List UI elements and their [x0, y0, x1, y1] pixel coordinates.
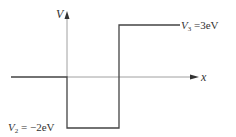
v3-label: V3 =3eV	[181, 19, 219, 33]
x-axis-label: x	[200, 70, 207, 84]
v-axis-arrow-icon	[65, 11, 70, 19]
v-axis-label: V	[56, 7, 65, 21]
v2-value: = −2eV	[18, 121, 54, 133]
potential-profile	[11, 25, 180, 128]
v3-value: =3eV	[191, 19, 218, 31]
potential-diagram: V x V3 =3eV V2 = −2eV	[0, 0, 236, 137]
v2-label: V2 = −2eV	[8, 121, 55, 135]
x-axis-arrow-icon	[190, 75, 199, 80]
